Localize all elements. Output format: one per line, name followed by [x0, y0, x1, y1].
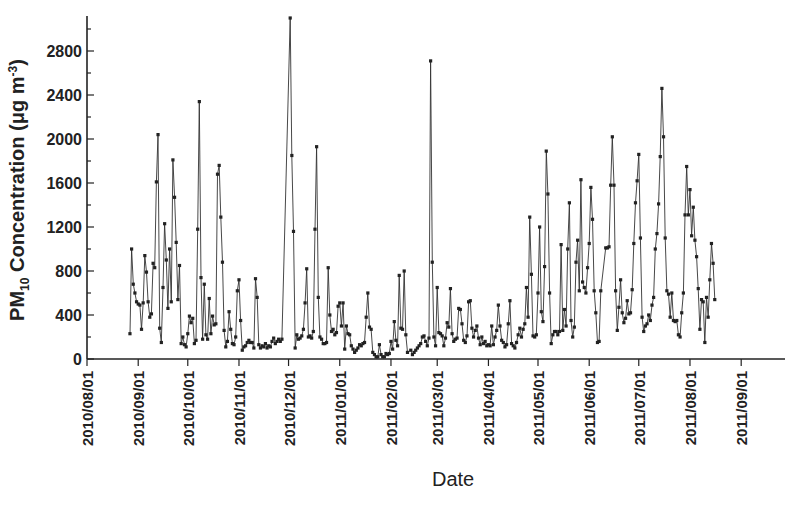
data-point-marker: [507, 322, 510, 325]
y-tick-label: 1200: [46, 219, 82, 236]
data-point-marker: [472, 335, 475, 338]
data-point-marker: [292, 230, 295, 233]
data-point-marker: [186, 332, 189, 335]
data-point-marker: [181, 335, 184, 338]
data-point-marker: [662, 135, 665, 138]
data-point-marker: [383, 355, 386, 358]
data-point-marker: [161, 286, 164, 289]
data-point-marker: [236, 289, 239, 292]
x-tick-label: 2010/08/01: [79, 371, 96, 446]
data-point-marker: [175, 241, 178, 244]
data-point-marker: [479, 343, 482, 346]
x-tick-label: 2011/03/01: [429, 371, 446, 445]
data-point-marker: [693, 239, 696, 242]
data-point-marker: [522, 328, 525, 331]
y-tick-label: 1600: [46, 175, 82, 192]
data-point-marker: [226, 340, 229, 343]
data-point-marker: [313, 228, 316, 231]
data-point-marker: [692, 206, 695, 209]
data-point-marker: [588, 242, 591, 245]
data-point-marker: [545, 150, 548, 153]
data-point-marker: [639, 236, 642, 239]
data-point-marker: [198, 100, 201, 103]
data-point-marker: [683, 213, 686, 216]
data-point-marker: [488, 344, 491, 347]
data-point-marker: [470, 327, 473, 330]
data-point-marker: [518, 327, 521, 330]
data-point-marker: [365, 316, 368, 319]
data-point-marker: [498, 324, 501, 327]
data-point-marker: [707, 316, 710, 319]
data-point-marker: [196, 228, 199, 231]
data-point-marker: [640, 316, 643, 319]
axes: [87, 16, 785, 359]
data-point-marker: [356, 346, 359, 349]
data-point-marker: [484, 340, 487, 343]
data-point-marker: [583, 286, 586, 289]
data-point-marker: [211, 315, 214, 318]
data-point-marker: [697, 287, 700, 290]
data-point-marker: [614, 289, 617, 292]
data-point-marker: [598, 340, 601, 343]
data-point-marker: [594, 311, 597, 314]
data-point-marker: [406, 351, 409, 354]
data-point-marker: [702, 300, 705, 303]
data-point-marker: [158, 327, 161, 330]
data-point-marker: [675, 319, 678, 322]
data-point-marker: [429, 59, 432, 62]
data-point-marker: [546, 192, 549, 195]
data-point-marker: [652, 296, 655, 299]
data-point-marker: [505, 343, 508, 346]
data-point-marker: [568, 201, 571, 204]
data-point-marker: [647, 313, 650, 316]
data-point-marker: [477, 337, 480, 340]
x-tick-label: 2010/12/01: [281, 371, 298, 446]
data-point-marker: [526, 316, 529, 319]
data-point-marker: [295, 333, 298, 336]
data-point-marker: [396, 344, 399, 347]
data-point-marker: [251, 341, 254, 344]
data-point-marker: [345, 324, 348, 327]
data-point-marker: [252, 346, 255, 349]
data-point-marker: [302, 328, 305, 331]
data-point-marker: [616, 329, 619, 332]
x-tick-label: 2011/01/01: [332, 371, 349, 445]
data-point-marker: [455, 337, 458, 340]
data-point-marker: [403, 269, 406, 272]
data-point-marker: [237, 278, 240, 281]
data-point-marker: [446, 321, 449, 324]
data-point-marker: [441, 334, 444, 337]
data-point-marker: [705, 296, 708, 299]
data-point-marker: [459, 308, 462, 311]
data-point-marker: [140, 328, 143, 331]
data-point-marker: [214, 322, 217, 325]
x-tick-label: 2011/09/01: [733, 371, 750, 445]
data-point-marker: [216, 173, 219, 176]
data-point-marker: [576, 239, 579, 242]
data-point-marker: [564, 324, 567, 327]
data-point-marker: [632, 242, 635, 245]
x-tick-label: 2011/02/01: [383, 371, 400, 445]
data-point-marker: [624, 317, 627, 320]
data-point-marker: [713, 298, 716, 301]
x-tick-label: 2011/08/01: [682, 371, 699, 445]
data-point-marker: [513, 346, 516, 349]
data-point-marker: [447, 326, 450, 329]
data-point-marker: [320, 338, 323, 341]
data-point-marker: [664, 236, 667, 239]
data-point-marker: [389, 340, 392, 343]
data-point-marker: [312, 330, 315, 333]
data-point-marker: [341, 301, 344, 304]
data-point-marker: [543, 265, 546, 268]
data-point-marker: [151, 262, 154, 265]
data-point-marker: [130, 247, 133, 250]
data-point-marker: [241, 349, 244, 352]
data-point-marker: [612, 184, 615, 187]
data-point-marker: [660, 87, 663, 90]
data-point-marker: [578, 289, 581, 292]
data-point-marker: [142, 301, 145, 304]
data-point-marker: [193, 342, 196, 345]
data-point-marker: [621, 311, 624, 314]
data-point-marker: [703, 341, 706, 344]
data-point-marker: [685, 165, 688, 168]
